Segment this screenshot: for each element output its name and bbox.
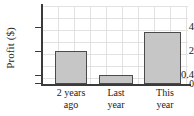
y-axis-line xyxy=(41,4,43,86)
bar-2-years-ago xyxy=(55,51,87,84)
category-line-1: This xyxy=(138,87,192,99)
y-axis-title: Profit ($) xyxy=(4,12,16,84)
category-label-this-year: This year xyxy=(138,87,192,110)
y-tick-label-4: 4 xyxy=(160,21,194,32)
x-axis-category-labels: 2 years ago Last year This year xyxy=(42,87,192,116)
category-line-2: year xyxy=(88,99,144,111)
category-line-2: year xyxy=(138,99,192,111)
category-label-last-year: Last year xyxy=(88,87,144,110)
y-tick-label-2: 2 xyxy=(160,45,194,56)
bar-last-year xyxy=(99,75,133,84)
bar-chart-figure: Profit ($) xyxy=(0,0,194,116)
category-line-1: Last xyxy=(88,87,144,99)
